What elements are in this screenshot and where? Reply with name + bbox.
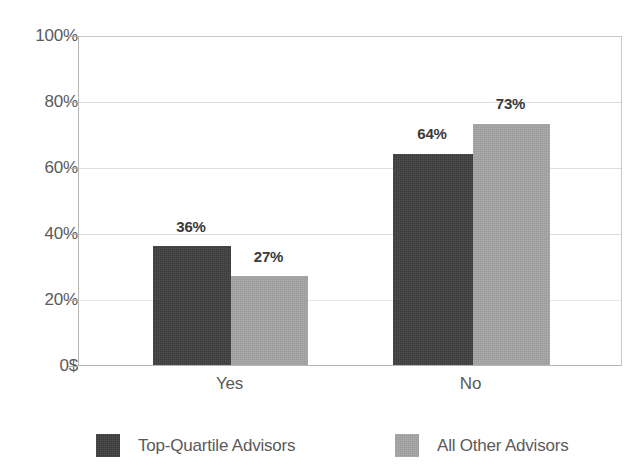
- legend-swatch-icon-dark: [96, 434, 120, 457]
- legend-label-top-quartile-advisors: Top-Quartile Advisors: [138, 436, 295, 456]
- y-tick-mark-80: [68, 102, 78, 103]
- x-category-label-no: No: [392, 374, 549, 394]
- legend-label-all-other-advisors: All Other Advisors: [437, 436, 569, 456]
- y-tick-mark-60: [68, 168, 78, 169]
- bar-yes-all-other-advisors: [231, 276, 308, 365]
- bar-chart: 100% 80% 60% 40% 20% 0$ 36% 27% 64% 73% …: [0, 0, 637, 473]
- data-label-no-all-other: 73%: [472, 95, 549, 112]
- y-tick-mark-40: [68, 234, 78, 235]
- legend-item-top-quartile-advisors: Top-Quartile Advisors: [96, 434, 295, 457]
- y-tick-mark-20: [68, 300, 78, 301]
- bar-no-all-other-advisors: [473, 124, 550, 365]
- x-category-label-yes: Yes: [152, 374, 307, 394]
- bar-no-top-quartile-advisors: [393, 154, 473, 365]
- chart-legend: Top-Quartile Advisors All Other Advisors: [0, 430, 637, 473]
- plot-area: [78, 36, 622, 366]
- legend-swatch-icon-light: [395, 434, 419, 457]
- y-tick-mark-100: [68, 36, 78, 37]
- data-label-yes-all-other: 27%: [230, 248, 307, 265]
- bar-yes-top-quartile-advisors: [153, 246, 231, 365]
- data-label-no-top-quartile: 64%: [392, 125, 472, 142]
- legend-item-all-other-advisors: All Other Advisors: [395, 434, 569, 457]
- data-label-yes-top-quartile: 36%: [152, 218, 230, 235]
- y-axis: 100% 80% 60% 40% 20% 0$: [0, 0, 78, 473]
- y-tick-mark-0: [68, 366, 78, 367]
